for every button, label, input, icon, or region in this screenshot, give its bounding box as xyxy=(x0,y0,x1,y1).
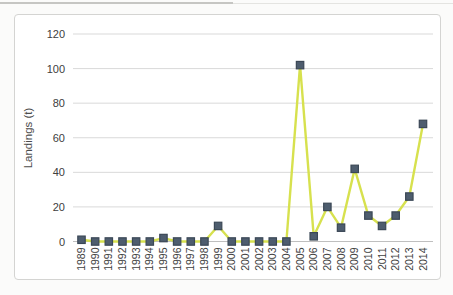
data-point xyxy=(187,238,194,245)
x-tick-label: 1994 xyxy=(143,247,155,271)
x-tick-label: 2004 xyxy=(280,247,292,271)
chart-frame: Landings (t) 020406080100120198919901991… xyxy=(14,14,441,280)
data-point xyxy=(419,120,426,127)
data-point xyxy=(105,238,112,245)
y-tick-label: 40 xyxy=(53,166,65,178)
x-tick-label: 2001 xyxy=(239,247,251,271)
data-point xyxy=(351,165,358,172)
x-tick-label: 2009 xyxy=(348,247,360,271)
data-point xyxy=(132,238,139,245)
x-tick-label: 2000 xyxy=(225,247,237,271)
y-tick-label: 100 xyxy=(47,63,65,75)
x-tick-label: 1990 xyxy=(89,247,101,271)
x-tick-label: 1996 xyxy=(171,247,183,271)
x-tick-label: 1995 xyxy=(157,247,169,271)
data-point xyxy=(324,203,331,210)
chart-svg: Landings (t) 020406080100120198919901991… xyxy=(15,15,440,279)
x-tick-label: 1999 xyxy=(212,247,224,271)
x-tick-label: 1991 xyxy=(102,247,114,271)
data-point xyxy=(378,222,385,229)
x-tick-label: 2007 xyxy=(321,247,333,271)
data-point xyxy=(78,236,85,243)
x-tick-label: 2008 xyxy=(335,247,347,271)
page-top-rule xyxy=(0,2,453,4)
data-point xyxy=(201,238,208,245)
data-point xyxy=(242,238,249,245)
x-tick-label: 1989 xyxy=(75,247,87,271)
x-tick-label: 2005 xyxy=(294,247,306,271)
x-tick-label: 1997 xyxy=(184,247,196,271)
data-point xyxy=(173,238,180,245)
data-point xyxy=(296,61,303,68)
data-point xyxy=(337,224,344,231)
x-tick-label: 2012 xyxy=(389,247,401,271)
x-tick-label: 2014 xyxy=(417,247,429,271)
x-tick-label: 1993 xyxy=(130,247,142,271)
data-point xyxy=(365,212,372,219)
y-tick-label: 120 xyxy=(47,28,65,40)
data-point xyxy=(91,238,98,245)
data-point xyxy=(310,233,317,240)
data-point xyxy=(269,238,276,245)
y-tick-label: 20 xyxy=(53,201,65,213)
data-point xyxy=(392,212,399,219)
y-tick-label: 0 xyxy=(59,236,65,248)
data-point xyxy=(228,238,235,245)
data-point xyxy=(160,234,167,241)
y-axis-title: Landings (t) xyxy=(22,107,34,168)
x-tick-label: 2011 xyxy=(376,247,388,270)
data-point xyxy=(283,238,290,245)
x-tick-label: 2006 xyxy=(307,247,319,271)
data-point xyxy=(406,193,413,200)
x-tick-label: 2003 xyxy=(266,247,278,271)
top-rule-right-segment xyxy=(233,3,453,4)
data-point xyxy=(255,238,262,245)
data-point xyxy=(146,238,153,245)
x-tick-label: 1992 xyxy=(116,247,128,271)
y-tick-label: 80 xyxy=(53,97,65,109)
top-rule-left-segment xyxy=(0,2,233,4)
data-point xyxy=(119,238,126,245)
y-tick-label: 60 xyxy=(53,132,65,144)
x-tick-label: 2002 xyxy=(253,247,265,271)
x-tick-label: 2010 xyxy=(362,247,374,271)
x-tick-label: 1998 xyxy=(198,247,210,271)
data-point xyxy=(214,222,221,229)
x-tick-label: 2013 xyxy=(403,247,415,271)
